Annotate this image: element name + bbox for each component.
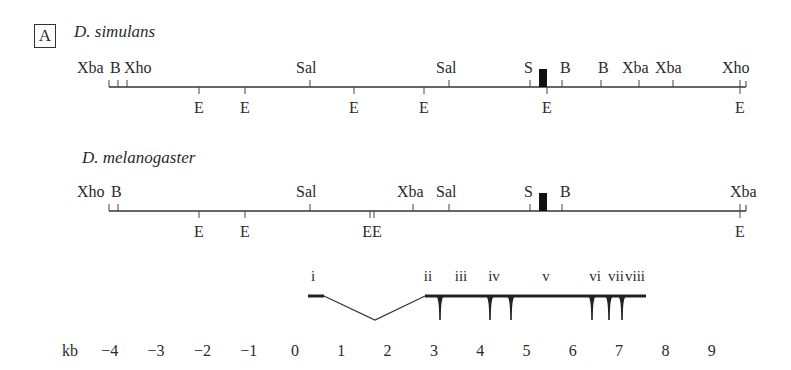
restriction-site-label: Xho xyxy=(124,59,152,77)
restriction-site-label: Sal xyxy=(296,59,316,77)
kb-scale-tick: −3 xyxy=(148,342,165,360)
kb-scale-tick: 8 xyxy=(661,342,669,360)
ecori-site-label: E xyxy=(735,99,745,117)
restriction-site-label: B xyxy=(110,59,121,77)
exon-label: viii xyxy=(625,268,645,285)
restriction-site-label: B xyxy=(598,59,609,77)
kb-scale-tick: 6 xyxy=(569,342,577,360)
exon-label: v xyxy=(542,268,550,285)
ecori-site-label: E xyxy=(419,99,429,117)
kb-scale-tick: 5 xyxy=(523,342,531,360)
kb-scale-tick: −1 xyxy=(240,342,257,360)
restriction-site-label: Sal xyxy=(436,59,456,77)
ecori-site-label: E xyxy=(194,99,204,117)
gene-location-box xyxy=(539,69,547,87)
kb-unit-label: kb xyxy=(62,342,78,360)
exon-label: vii xyxy=(608,268,624,285)
exon-label: iv xyxy=(488,268,500,285)
restriction-site-label: Xba xyxy=(397,183,424,201)
restriction-site-label: Xba xyxy=(77,59,104,77)
ecori-site-label: E xyxy=(735,223,745,241)
ecori-site-label: E xyxy=(194,223,204,241)
restriction-site-label: Sal xyxy=(296,183,316,201)
kb-scale-tick: 2 xyxy=(384,342,392,360)
intron-dip xyxy=(605,296,613,320)
restriction-site-label: B xyxy=(111,183,122,201)
kb-scale-tick: −4 xyxy=(101,342,118,360)
kb-scale-tick: 4 xyxy=(476,342,484,360)
restriction-site-label: S xyxy=(524,183,533,201)
ecori-site-label: E xyxy=(542,99,552,117)
ecori-site-label: EE xyxy=(362,223,382,241)
restriction-site-label: Xho xyxy=(77,183,105,201)
kb-scale-tick: 1 xyxy=(337,342,345,360)
restriction-site-label: B xyxy=(560,59,571,77)
restriction-site-label: Xba xyxy=(622,59,649,77)
intron-1 xyxy=(324,296,425,320)
intron-dip xyxy=(507,296,515,320)
kb-scale-tick: 3 xyxy=(430,342,438,360)
kb-scale-tick: 9 xyxy=(708,342,716,360)
ecori-site-label: E xyxy=(240,223,250,241)
exon-label: vi xyxy=(589,268,601,285)
restriction-site-label: Xho xyxy=(722,59,750,77)
restriction-site-label: S xyxy=(524,59,533,77)
exon-label: iii xyxy=(455,268,468,285)
intron-dip xyxy=(486,296,494,320)
kb-scale-tick: 7 xyxy=(615,342,623,360)
gene-location-box xyxy=(539,193,547,211)
restriction-site-label: B xyxy=(560,183,571,201)
exon-label: i xyxy=(311,268,315,285)
intron-dip xyxy=(618,296,626,320)
intron-dip xyxy=(436,296,444,320)
exon-label: ii xyxy=(424,268,432,285)
kb-scale-tick: 0 xyxy=(291,342,299,360)
restriction-site-label: Sal xyxy=(436,183,456,201)
restriction-site-label: Xba xyxy=(730,183,757,201)
intron-dip xyxy=(588,296,596,320)
ecori-site-label: E xyxy=(240,99,250,117)
restriction-site-label: Xba xyxy=(655,59,682,77)
ecori-site-label: E xyxy=(349,99,359,117)
kb-scale-tick: −2 xyxy=(194,342,211,360)
